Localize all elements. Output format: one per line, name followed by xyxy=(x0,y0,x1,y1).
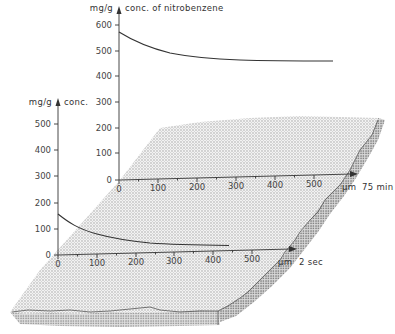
top-y-arrow-icon xyxy=(117,6,122,14)
bottom-y-unit: mg/g xyxy=(29,97,52,107)
svg-text:400: 400 xyxy=(205,255,221,265)
svg-text:100: 100 xyxy=(96,148,112,158)
svg-text:300: 300 xyxy=(96,97,112,107)
svg-text:200: 200 xyxy=(96,123,112,133)
bottom-y-ticks xyxy=(54,124,58,255)
svg-text:0: 0 xyxy=(116,184,121,194)
top-chart-title: conc. of nitrobenzene xyxy=(125,3,223,13)
svg-text:400: 400 xyxy=(267,180,283,190)
sample-slab xyxy=(10,116,385,327)
svg-text:300: 300 xyxy=(35,171,51,181)
bottom-time-label: 2 sec xyxy=(299,257,323,267)
svg-text:100: 100 xyxy=(89,258,105,268)
svg-text:300: 300 xyxy=(166,256,182,266)
svg-text:0: 0 xyxy=(107,175,112,185)
svg-text:600: 600 xyxy=(96,20,112,30)
svg-text:100: 100 xyxy=(35,224,51,234)
svg-text:500: 500 xyxy=(306,179,322,189)
svg-text:300: 300 xyxy=(228,181,244,191)
svg-text:500: 500 xyxy=(35,119,51,129)
top-curve-75min xyxy=(119,32,333,61)
bottom-chart-title: conc. xyxy=(64,97,88,107)
top-y-labels: 600 500 400 300 200 100 0 xyxy=(96,20,112,185)
bottom-x-unit: µm xyxy=(278,257,292,267)
svg-text:500: 500 xyxy=(96,46,112,56)
top-y-unit: mg/g xyxy=(90,3,113,13)
top-y-ticks xyxy=(115,25,119,180)
svg-text:0: 0 xyxy=(46,250,51,260)
nitrobenzene-diffusion-figure: 600 500 400 300 200 100 0 0 100 200 300 xyxy=(0,0,395,334)
svg-text:400: 400 xyxy=(96,71,112,81)
svg-text:200: 200 xyxy=(128,257,144,267)
bottom-y-labels: 500 400 300 200 100 0 xyxy=(35,119,51,260)
top-x-unit: µm xyxy=(342,182,356,192)
svg-text:100: 100 xyxy=(150,183,166,193)
svg-text:200: 200 xyxy=(189,182,205,192)
svg-text:500: 500 xyxy=(244,254,260,264)
svg-text:0: 0 xyxy=(55,259,60,269)
svg-text:200: 200 xyxy=(35,198,51,208)
svg-text:400: 400 xyxy=(35,145,51,155)
top-time-label: 75 min xyxy=(362,182,393,192)
bottom-y-arrow-icon xyxy=(56,98,61,106)
